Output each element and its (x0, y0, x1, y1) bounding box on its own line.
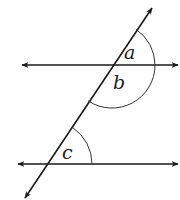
angle-c-arc (73, 127, 93, 164)
angle-b-label: b (113, 71, 125, 93)
angle-a-arc (136, 29, 155, 65)
angle-c-label: c (62, 141, 73, 163)
parallel-lines-transversal-diagram: a b c (0, 0, 180, 200)
angle-a-label: a (124, 41, 135, 63)
